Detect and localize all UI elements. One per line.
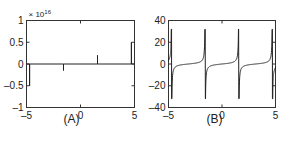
tan-branch-line [239,29,273,99]
residual-line [27,42,135,86]
chart-a-panel: –50510.50–0.5–1× 1016 (A) [0,0,143,144]
y-tick-label: 0 [18,59,24,70]
y-tick-label: 40 [154,15,166,26]
y-tick-label: –0.5 [4,80,24,91]
chart-a-caption: (A) [0,112,143,126]
y-tick-label: 1 [18,15,24,26]
y-tick-label: –20 [149,80,166,91]
y-tick-label: 0.5 [10,37,24,48]
y-tick-label: 20 [154,37,166,48]
tan-branch-line [172,29,206,99]
tan-branch-line [205,29,239,99]
y-multiplier-label: × 1016 [29,9,52,19]
chart-b-panel: –50540200–20–40 (B) [143,0,286,144]
y-tick-label: 0 [160,59,166,70]
chart-b-caption: (B) [143,112,286,126]
